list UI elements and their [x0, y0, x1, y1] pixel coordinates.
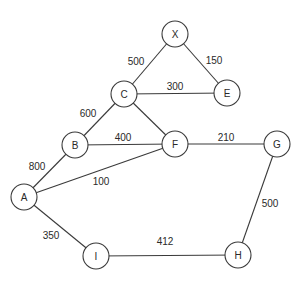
- node-label: F: [172, 139, 178, 150]
- edge-weight-c-b: 600: [80, 108, 97, 119]
- node-c: C: [111, 81, 137, 107]
- edge-weight-a-b: 800: [29, 161, 46, 172]
- node-label: G: [273, 139, 281, 150]
- node-label: X: [172, 29, 179, 40]
- node-x: X: [162, 21, 188, 47]
- edge-weight-x-c: 500: [128, 56, 145, 67]
- node-label: E: [224, 88, 231, 99]
- node-label: I: [95, 251, 98, 262]
- edge-weight-c-e: 300: [167, 81, 184, 92]
- edge-weight-i-h: 412: [157, 236, 174, 247]
- node-label: B: [72, 140, 79, 151]
- node-i: I: [83, 243, 109, 269]
- edge-weight-a-f: 100: [93, 176, 110, 187]
- node-h: H: [225, 242, 251, 268]
- node-label: A: [21, 192, 28, 203]
- node-label: C: [120, 89, 127, 100]
- node-e: E: [214, 80, 240, 106]
- edge-a-i: [24, 197, 96, 256]
- node-a: A: [11, 184, 37, 210]
- edge-weight-a-i: 350: [43, 230, 60, 241]
- edge-weight-g-h: 500: [262, 198, 279, 209]
- edge-c-e: [124, 93, 227, 94]
- edge-a-f: [24, 144, 175, 197]
- edge-weight-b-f: 400: [115, 132, 132, 143]
- weighted-graph-diagram: 500150300600400210800100350412500 XCEBFG…: [0, 0, 307, 289]
- edge-b-f: [75, 144, 175, 145]
- edge-weight-x-e: 150: [206, 55, 223, 66]
- node-b: B: [62, 132, 88, 158]
- edge-weight-f-g: 210: [218, 132, 235, 143]
- edge-i-h: [96, 255, 238, 256]
- node-f: F: [162, 131, 188, 157]
- node-g: G: [264, 131, 290, 157]
- node-label: H: [234, 250, 241, 261]
